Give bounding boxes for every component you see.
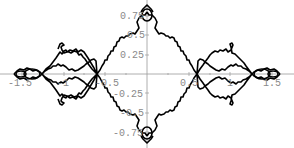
x-label-0.5: 0.5 <box>180 78 198 89</box>
x-label-neg-1: -1 <box>57 78 69 89</box>
y-tick-labels: 0.75 0.5 0.25 -0.25 -0.5 -0.75 <box>113 11 145 139</box>
x-label-1: 1 <box>227 78 233 89</box>
y-label-neg-0.25: -0.25 <box>113 89 143 100</box>
y-label-0.75: 0.75 <box>120 11 144 22</box>
fractal-plot: -1.5 -1 -0.5 0.5 1 1.5 0.75 0.5 0.25 -0.… <box>0 0 294 148</box>
y-label-neg-0.5: -0.5 <box>120 108 144 119</box>
y-label-neg-0.75: -0.75 <box>113 128 143 139</box>
x-label-neg-1.5: -1.5 <box>8 78 32 89</box>
x-label-neg-0.5: -0.5 <box>95 78 119 89</box>
y-label-0.25: 0.25 <box>120 50 144 61</box>
y-label-0.5: 0.5 <box>127 30 145 41</box>
x-label-1.5: 1.5 <box>263 78 281 89</box>
